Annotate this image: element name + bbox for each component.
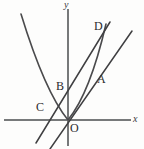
geometry-figure: y x O B C A D	[0, 0, 144, 149]
point-label-d: D	[94, 20, 103, 32]
x-axis-label: x	[133, 114, 137, 124]
point-label-c: C	[36, 101, 44, 113]
point-label-origin: O	[70, 122, 79, 134]
point-label-b: B	[56, 80, 64, 92]
y-axis-label: y	[64, 0, 68, 10]
point-label-a: A	[97, 73, 106, 85]
